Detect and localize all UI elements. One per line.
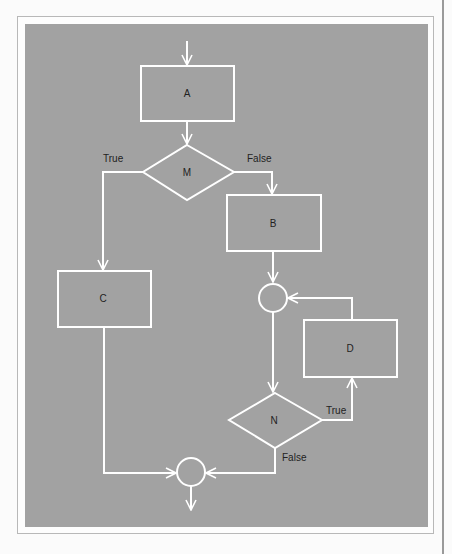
connector-j2 xyxy=(177,458,205,486)
edge-d-j1 xyxy=(288,298,352,320)
node-n-label: N xyxy=(270,415,277,426)
edge-c-j2 xyxy=(104,327,176,473)
node-m-label: M xyxy=(183,167,191,178)
node-c-label: C xyxy=(99,293,106,304)
edge-label-n-true: True xyxy=(326,405,347,416)
node-d-label: D xyxy=(346,343,353,354)
flowchart: A M B C D N True False True False xyxy=(0,0,452,554)
edge-label-m-true: True xyxy=(103,153,124,164)
edge-label-n-false: False xyxy=(282,452,307,463)
connector-j1 xyxy=(259,284,287,312)
edge-m-true-c xyxy=(103,172,143,270)
edge-m-false-b xyxy=(234,172,272,194)
node-b-label: B xyxy=(270,218,277,229)
edge-label-m-false: False xyxy=(247,153,272,164)
edge-n-false-j2 xyxy=(206,448,275,473)
node-a-label: A xyxy=(184,88,191,99)
